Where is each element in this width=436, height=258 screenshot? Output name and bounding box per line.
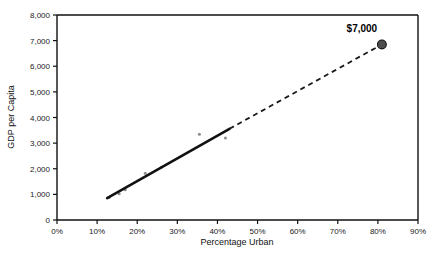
y-axis-tick-labels: 01,0002,0003,0004,0005,0006,0007,0008,00… — [30, 11, 51, 225]
y-axis-tick-label: 7,000 — [30, 37, 51, 46]
x-axis-tick-label: 70% — [330, 227, 346, 236]
y-axis-tick-label: 3,000 — [30, 139, 51, 148]
y-axis-tick-label: 8,000 — [30, 11, 51, 20]
endpoint-value-label: $7,000 — [347, 23, 378, 34]
x-axis-tick-label: 50% — [250, 227, 266, 236]
y-axis-tick-label: 5,000 — [30, 88, 51, 97]
x-axis-tick-label: 20% — [129, 227, 145, 236]
x-axis-tick-label: 40% — [209, 227, 225, 236]
x-axis-tick-label: 30% — [169, 227, 185, 236]
y-axis-tick-label: 2,000 — [30, 165, 51, 174]
y-axis-tick-label: 4,000 — [30, 114, 51, 123]
x-axis-tick-label: 90% — [410, 227, 426, 236]
annotation-layer: $7,000 — [347, 23, 378, 34]
y-axis-title: GDP per Capita — [6, 85, 16, 148]
data-point — [224, 137, 227, 140]
x-axis-tick-label: 80% — [370, 227, 386, 236]
x-axis-tick-label: 10% — [89, 227, 105, 236]
x-axis-tick-label: 0% — [51, 227, 63, 236]
y-axis-tick-label: 0 — [46, 216, 51, 225]
chart-canvas: 01,0002,0003,0004,0005,0006,0007,0008,00… — [0, 0, 436, 258]
scatter-chart: 01,0002,0003,0004,0005,0006,0007,0008,00… — [0, 0, 436, 258]
series-projected-endpoint — [378, 40, 387, 49]
data-point — [144, 172, 147, 175]
x-axis-tick-label: 60% — [290, 227, 306, 236]
x-axis-title: Percentage Urban — [200, 237, 273, 247]
data-point — [198, 133, 201, 136]
y-axis-tick-label: 1,000 — [30, 190, 51, 199]
endpoint-marker — [378, 40, 387, 49]
y-axis-tick-label: 6,000 — [30, 62, 51, 71]
